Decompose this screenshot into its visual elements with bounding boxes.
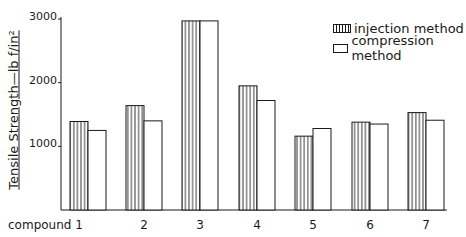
bar-compression-2: [144, 121, 162, 210]
legend-label-compression: compression method: [351, 33, 466, 63]
legend: injection method compression method: [333, 18, 466, 58]
bar-compression-5: [313, 129, 331, 210]
legend-item-compression: compression method: [333, 38, 466, 58]
bar-injection-4: [239, 86, 257, 210]
x-tick-label: 3: [196, 218, 204, 232]
bar-injection-7: [408, 113, 426, 210]
bar-injection-5: [295, 136, 313, 210]
bar-compression-7: [426, 120, 444, 210]
y-tick-label: 2000: [29, 74, 57, 87]
x-tick-label: 6: [366, 218, 374, 232]
bar-injection-3: [182, 21, 200, 210]
bar-compression-3: [200, 21, 218, 210]
bar-injection-2: [126, 106, 144, 210]
x-tick-label: 7: [422, 218, 430, 232]
y-axis-label: Tensile Strength—lb f/in²: [6, 30, 21, 189]
bar-compression-1: [88, 130, 106, 210]
x-tick-label: compound 1: [8, 218, 83, 232]
bar-injection-1: [70, 122, 88, 210]
y-tick-label: 1000: [29, 137, 57, 150]
y-axis-label-container: Tensile Strength—lb f/in²: [2, 10, 24, 210]
bar-injection-6: [352, 122, 370, 210]
hatched-swatch-icon: [333, 24, 351, 33]
bar-compression-4: [257, 100, 275, 210]
x-tick-label: 5: [309, 218, 317, 232]
open-swatch-icon: [333, 44, 348, 53]
x-tick-label: 2: [140, 218, 148, 232]
bar-compression-6: [370, 124, 388, 210]
y-tick-label: 3000: [29, 10, 57, 23]
x-tick-label: 4: [253, 218, 261, 232]
